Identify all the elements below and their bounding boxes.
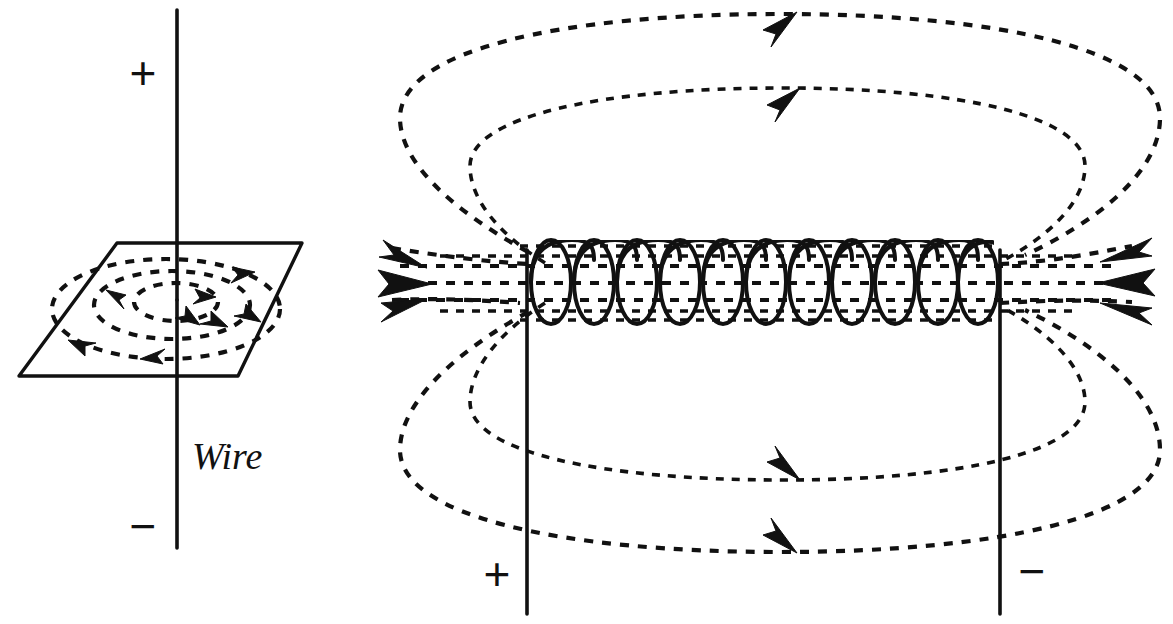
figure-root: + − Wire (0, 0, 1173, 624)
solenoid-positive-terminal-label: + (484, 548, 511, 600)
magnetic-field-figure: + − Wire (0, 0, 1173, 624)
solenoid-negative-terminal-label: − (1019, 545, 1046, 597)
wire-negative-terminal-label: − (130, 500, 157, 552)
wire-text-label: Wire (192, 435, 262, 477)
wire-positive-terminal-label: + (130, 47, 157, 99)
